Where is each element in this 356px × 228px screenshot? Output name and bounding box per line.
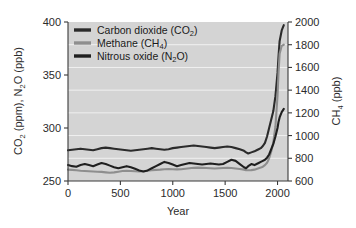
right-tick-label: 1000 [295,130,319,142]
right-tick-label: 2000 [295,16,319,28]
greenhouse-gas-chart: 2503003504006008001000120014001600180020… [0,0,356,228]
right-tick-label: 1400 [295,84,319,96]
right-tick-label: 800 [295,152,313,164]
x-tick-label: 500 [111,187,129,199]
x-tick-label: 2000 [265,187,289,199]
left-tick-label: 250 [43,175,61,187]
x-tick-label: 0 [65,187,71,199]
x-axis-title: Year [167,205,190,217]
left-tick-label: 300 [43,122,61,134]
x-tick-label: 1500 [213,187,237,199]
right-tick-label: 1600 [295,61,319,73]
right-tick-label: 1200 [295,107,319,119]
right-tick-label: 1800 [295,39,319,51]
right-tick-label: 600 [295,175,313,187]
left-tick-label: 400 [43,16,61,28]
x-tick-label: 1000 [161,187,185,199]
chart-canvas: 2503003504006008001000120014001600180020… [0,0,356,228]
left-tick-label: 350 [43,69,61,81]
